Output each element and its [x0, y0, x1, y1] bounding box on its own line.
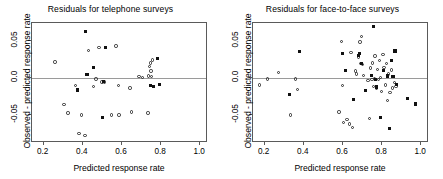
data-point-filled-square [288, 93, 291, 96]
data-point-filled-square [344, 69, 347, 72]
data-point-open-circle [128, 86, 131, 89]
data-point-open-circle [53, 60, 56, 63]
data-point-open-circle [366, 79, 369, 82]
data-point-open-circle [130, 110, 133, 113]
y-axis-tick-label: -0.05 [231, 102, 240, 126]
x-axis-tick [342, 142, 343, 145]
x-axis-tick [121, 142, 122, 145]
data-point-filled-square [358, 52, 361, 55]
data-point-open-circle [371, 61, 374, 64]
data-point-filled-square [364, 89, 367, 92]
x-axis-tick [199, 142, 200, 145]
x-axis-tick [381, 142, 382, 145]
data-point-open-circle [83, 134, 86, 137]
x-axis-tick [303, 142, 304, 145]
data-point-open-circle [77, 132, 80, 135]
panel-telephone-surveys: Residuals for telephone surveys 0.20.40.… [0, 0, 221, 179]
data-point-open-circle [296, 88, 299, 91]
data-point-open-circle [349, 51, 352, 54]
data-point-open-circle [117, 113, 120, 116]
data-point-filled-square [101, 116, 104, 119]
plot-area-face-to-face [252, 22, 428, 142]
y-axis-tick-label: 0.0 [10, 65, 19, 89]
data-point-open-circle [386, 99, 389, 102]
data-point-open-circle [348, 122, 351, 125]
data-point-filled-square [395, 83, 398, 86]
data-point-open-circle [341, 84, 344, 87]
x-axis-tick-label: 0.8 [154, 147, 165, 156]
data-point-filled-square [375, 85, 378, 88]
data-point-open-circle [369, 66, 372, 69]
data-point-open-circle [277, 71, 280, 74]
residuals-figure: Residuals for telephone surveys 0.20.40.… [0, 0, 443, 179]
y-axis-tick-label: 0.05 [10, 28, 19, 52]
data-point-filled-square [388, 127, 391, 130]
data-point-filled-square [156, 57, 159, 60]
data-point-filled-square [298, 50, 301, 53]
x-axis-title: Predicted response rate [73, 163, 164, 173]
data-point-open-circle [385, 62, 388, 65]
data-point-open-circle [345, 118, 348, 121]
x-axis-tick-label: 0.2 [258, 147, 269, 156]
data-point-filled-square [386, 74, 389, 77]
data-point-open-circle [376, 68, 379, 71]
x-axis-tick [264, 142, 265, 145]
data-point-open-circle [384, 83, 387, 86]
data-point-open-circle [373, 54, 376, 57]
data-point-filled-square [84, 30, 87, 33]
x-axis-tick-label: 1.0 [414, 147, 425, 156]
data-point-open-circle [378, 59, 381, 62]
data-points-telephone [32, 23, 206, 141]
data-point-filled-square [152, 85, 155, 88]
data-point-open-circle [258, 83, 261, 86]
x-axis-tick-label: 0.6 [115, 147, 126, 156]
x-axis-tick-label: 0.4 [297, 147, 308, 156]
x-axis-tick [43, 142, 44, 145]
data-point-open-circle [117, 84, 120, 87]
data-point-filled-square [414, 102, 417, 105]
data-point-open-circle [294, 77, 297, 80]
data-point-open-circle [66, 111, 69, 114]
x-axis-tick-label: 0.4 [76, 147, 87, 156]
x-axis-tick-label: 0.2 [37, 147, 48, 156]
data-points-face-to-face [253, 23, 427, 141]
y-axis-title: Observed - predicted response rate [243, 1, 253, 161]
data-point-open-circle [379, 76, 382, 79]
data-point-open-circle [80, 113, 83, 116]
x-axis-tick-label: 0.8 [375, 147, 386, 156]
plot-area-telephone [31, 22, 207, 142]
data-point-open-circle [149, 69, 152, 72]
data-point-open-circle [289, 113, 292, 116]
data-point-open-circle [148, 65, 151, 68]
data-point-filled-square [76, 88, 79, 91]
data-point-open-circle [388, 91, 391, 94]
data-point-open-circle [390, 68, 393, 71]
data-point-filled-square [352, 98, 355, 101]
data-point-open-circle [266, 77, 269, 80]
data-point-filled-square [102, 80, 105, 83]
data-point-filled-square [104, 46, 107, 49]
panel-face-to-face-surveys: Residuals for face-to-face surveys 0.20.… [222, 0, 443, 179]
data-point-filled-square [341, 52, 344, 55]
data-point-filled-square [391, 75, 394, 78]
data-point-open-circle [114, 44, 117, 47]
data-point-open-circle [380, 90, 383, 93]
data-point-open-circle [92, 85, 95, 88]
x-axis-tick [82, 142, 83, 145]
data-point-filled-square [92, 66, 95, 69]
x-axis-title: Predicted response rate [294, 163, 385, 173]
data-point-filled-square [382, 69, 385, 72]
data-point-filled-square [85, 73, 88, 76]
data-point-open-circle [358, 40, 361, 43]
data-point-filled-square [158, 83, 161, 86]
y-axis-title: Observed - predicted response rate [22, 1, 32, 161]
data-point-open-circle [110, 113, 113, 116]
y-axis-tick-label: 0.0 [231, 65, 240, 89]
data-point-filled-square [379, 116, 382, 119]
data-point-open-circle [151, 58, 154, 61]
x-axis-tick [160, 142, 161, 145]
data-point-open-circle [87, 49, 90, 52]
x-axis-tick [420, 142, 421, 145]
data-point-filled-square [406, 97, 409, 100]
x-axis-tick-label: 0.6 [336, 147, 347, 156]
